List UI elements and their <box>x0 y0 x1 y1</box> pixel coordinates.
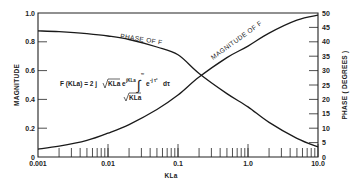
y-left-tick-label: 0.4 <box>25 96 35 103</box>
formula-upper-limit: ∞ <box>141 71 144 76</box>
phase-curve-label: PHASE OF F <box>120 32 163 46</box>
y-right-tick-label: 45 <box>322 24 330 31</box>
y-left-tick-label: 1.0 <box>25 10 35 17</box>
y-right-tick-label: 50 <box>322 10 330 17</box>
phase-curve <box>38 31 318 147</box>
x-tick-label: 0.001 <box>29 160 47 167</box>
x-tick-label: 1.0 <box>243 160 253 167</box>
y-right-tick-label: 40 <box>322 38 330 45</box>
y-right-tick-label: 25 <box>322 82 330 89</box>
y-right-tick-label: 20 <box>322 96 330 103</box>
y-left-tick-label: 0 <box>31 154 35 161</box>
formula-dtau: dτ <box>163 80 170 87</box>
y-right-tick-label: 35 <box>322 53 330 60</box>
y-right-tick-label: 0 <box>322 154 326 161</box>
magnitude-curve-label: MAGNITUDE OF F <box>209 19 263 61</box>
formula: F (KLa) = 2 j KLa e jKLa ∫ ∞ e -j τ² dτ … <box>60 71 170 101</box>
y-left-axis-title: MAGNITUDE <box>13 64 20 106</box>
y-right-tick-label: 30 <box>322 67 330 74</box>
y-right-axis-ticks: 05101520253035404550 <box>309 10 330 161</box>
formula-exp: jKLa <box>125 78 136 83</box>
y-left-tick-label: 0.6 <box>25 67 35 74</box>
x-tick-label: 0.1 <box>173 160 183 167</box>
x-tick-label: 10.0 <box>311 160 325 167</box>
formula-lower-limit: KLa <box>129 94 142 101</box>
formula-sqrt-arg: KLa <box>108 80 121 87</box>
y-right-tick-label: 5 <box>322 139 326 146</box>
y-right-axis-title: PHASE ( DEGREES ) <box>341 50 349 119</box>
formula-integrand-exp: -j τ² <box>150 78 158 83</box>
chart: 0.0010.010.11.010.0 00.20.40.60.81.0 051… <box>0 0 353 183</box>
x-axis-title: KLa <box>164 172 177 179</box>
formula-lhs: F (KLa) = 2 j <box>60 80 97 88</box>
y-right-tick-label: 10 <box>322 125 330 132</box>
x-axis-ticks: 0.0010.010.11.010.0 <box>29 144 325 167</box>
x-tick-label: 0.01 <box>101 160 115 167</box>
y-right-tick-label: 15 <box>322 110 330 117</box>
y-left-tick-label: 0.2 <box>25 125 35 132</box>
y-left-axis-ticks: 00.20.40.60.81.0 <box>25 10 47 161</box>
y-left-tick-label: 0.8 <box>25 38 35 45</box>
integral-sign-icon: ∫ <box>136 77 142 93</box>
